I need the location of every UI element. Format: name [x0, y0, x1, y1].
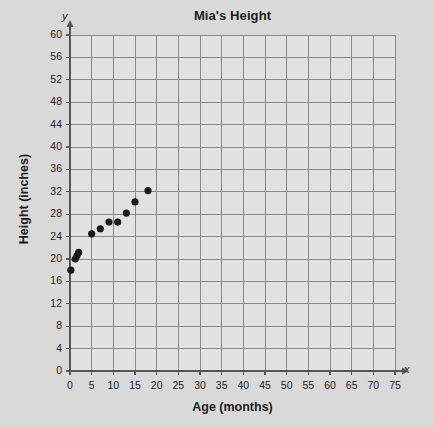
data-point	[123, 209, 130, 216]
y-tick-label: 0	[36, 364, 62, 376]
plot-background	[70, 35, 395, 371]
y-tick-label: 52	[36, 73, 62, 85]
chart-container: Mia's Height Height (inches) Age (months…	[0, 0, 434, 428]
y-tick-label: 44	[36, 118, 62, 130]
data-point	[88, 230, 95, 237]
y-tick-label: 4	[36, 342, 62, 354]
y-tick-label: 56	[36, 50, 62, 62]
y-tick-label: 40	[36, 140, 62, 152]
x-tick-label: 75	[382, 379, 408, 391]
plot-area	[0, 0, 434, 428]
data-point	[97, 225, 104, 232]
data-point	[67, 267, 74, 274]
y-tick-label: 12	[36, 297, 62, 309]
y-tick-label: 36	[36, 162, 62, 174]
data-point	[144, 187, 151, 194]
data-point	[131, 198, 138, 205]
y-tick-label: 20	[36, 252, 62, 264]
data-point	[114, 218, 121, 225]
y-tick-label: 8	[36, 319, 62, 331]
y-tick-label: 28	[36, 207, 62, 219]
y-tick-label: 24	[36, 230, 62, 242]
data-point	[75, 249, 82, 256]
data-point	[105, 218, 112, 225]
y-tick-label: 32	[36, 185, 62, 197]
y-tick-label: 60	[36, 28, 62, 40]
y-tick-label: 16	[36, 274, 62, 286]
y-tick-label: 48	[36, 95, 62, 107]
